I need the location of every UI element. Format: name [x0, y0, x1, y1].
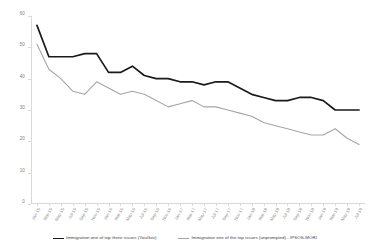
- x-axis-tick-mark: [359, 204, 360, 206]
- series-line-1: [37, 25, 359, 110]
- x-axis-line: [31, 203, 365, 204]
- x-axis-tick-label-text: Jan-16: [102, 207, 113, 221]
- x-axis-tick-label-text: Sep-17: [221, 207, 232, 222]
- legend-entry-label: Immigration one of the top issues (unpro…: [191, 235, 316, 241]
- x-axis-tick-label-text: Sep-18: [292, 207, 303, 222]
- y-axis-tick-label: 20: [20, 136, 25, 141]
- x-axis-tick-label-text: Jul-18: [282, 207, 292, 220]
- x-axis-tick-label-text: Jul-16: [138, 207, 148, 220]
- x-axis-tick-label-text: May-18: [268, 207, 279, 222]
- x-axis-tick-label-text: Mar-15: [42, 207, 53, 221]
- x-axis-tick-label-text: Nov-16: [161, 207, 172, 222]
- x-axis-tick-label-text: Jul-19: [353, 207, 363, 220]
- x-axis-tick-label-text: Jul-15: [67, 207, 77, 220]
- x-axis-tick-mark: [335, 204, 336, 206]
- x-axis-tick-mark: [49, 204, 50, 206]
- x-axis-tick-mark: [299, 204, 300, 206]
- x-axis-tick-label-text: Sep-15: [78, 207, 89, 222]
- x-axis-tick-mark: [132, 204, 133, 206]
- x-axis-tick-mark: [109, 204, 110, 206]
- x-axis-tick-mark: [311, 204, 312, 206]
- x-axis-tick-mark: [228, 204, 229, 206]
- x-axis-tick-mark: [347, 204, 348, 206]
- x-axis-tick-mark: [97, 204, 98, 206]
- x-axis-tick-mark: [37, 204, 38, 206]
- y-axis-tick-label: 0: [22, 199, 25, 204]
- x-axis-tick-label-text: Nov-17: [233, 207, 244, 222]
- x-axis-tick-mark: [144, 204, 145, 206]
- x-axis-tick-mark: [168, 204, 169, 206]
- x-axis-tick-label-text: Jan-18: [245, 207, 256, 221]
- x-axis-tick-label-text: Jul-17: [210, 207, 220, 220]
- y-axis-tick-mark: [28, 16, 31, 17]
- x-axis-tick-label-text: May-19: [340, 207, 351, 222]
- legend-entry-label: Immigration one of top three issues (You…: [66, 235, 156, 241]
- x-axis-tick-label-text: Mar-19: [328, 207, 339, 221]
- y-axis-tick-mark: [28, 141, 31, 142]
- x-axis-tick-mark: [323, 204, 324, 206]
- series-line-2: [37, 44, 359, 144]
- x-axis-tick-label-text: Nov-15: [90, 207, 101, 222]
- y-axis-tick-mark: [28, 110, 31, 111]
- y-axis-tick-mark: [28, 204, 31, 205]
- legend-entry-2[interactable]: Immigration one of the top issues (unpro…: [178, 235, 316, 241]
- x-axis-tick-mark: [216, 204, 217, 206]
- y-axis-tick-mark: [28, 79, 31, 80]
- x-axis-tick-label-text: May-17: [197, 207, 208, 222]
- y-axis-tick-label: 50: [20, 42, 25, 47]
- x-axis-tick-mark: [252, 204, 253, 206]
- x-axis-tick-mark: [156, 204, 157, 206]
- x-axis-tick-label-text: Jan-17: [174, 207, 185, 221]
- y-axis-tick-mark: [28, 173, 31, 174]
- x-axis-tick-label-text: Mar-18: [257, 207, 268, 221]
- x-axis-tick-mark: [73, 204, 74, 206]
- x-axis-tick-label-text: Mar-17: [185, 207, 196, 221]
- x-axis-tick-mark: [264, 204, 265, 206]
- y-axis-line: [31, 16, 32, 204]
- x-axis-tick-label-text: May-16: [125, 207, 136, 222]
- series-plot: [0, 0, 370, 251]
- legend-line-swatch-icon: [178, 238, 189, 239]
- immigration-salience-line-chart: 6050403020100 Jan-15Mar-15May-15Jul-15Se…: [0, 0, 370, 251]
- x-axis-tick-mark: [240, 204, 241, 206]
- y-axis-tick-label: 10: [20, 168, 25, 173]
- y-axis-tick-label: 30: [20, 105, 25, 110]
- x-axis-tick-mark: [120, 204, 121, 206]
- y-axis-tick-label: 40: [20, 74, 25, 79]
- x-axis-tick-mark: [192, 204, 193, 206]
- x-axis-tick-mark: [85, 204, 86, 206]
- x-axis-tick-label-text: Nov-18: [304, 207, 315, 222]
- x-axis-tick-mark: [276, 204, 277, 206]
- x-axis-tick-mark: [180, 204, 181, 206]
- x-axis-tick-label-text: May-15: [54, 207, 65, 222]
- x-axis-tick-mark: [61, 204, 62, 206]
- x-axis-tick-label-text: Jan-19: [317, 207, 328, 221]
- x-axis-tick-label-text: Sep-16: [149, 207, 160, 222]
- x-axis-tick-mark: [287, 204, 288, 206]
- y-axis-tick-label: 60: [20, 11, 25, 16]
- x-axis-tick-label-text: Jan-15: [30, 207, 41, 221]
- chart-legend: Immigration one of top three issues (You…: [0, 231, 370, 245]
- x-axis-tick-label-text: Mar-16: [114, 207, 125, 221]
- x-axis-tick-mark: [204, 204, 205, 206]
- legend-entry-1[interactable]: Immigration one of top three issues (You…: [53, 235, 156, 241]
- legend-line-swatch-icon: [53, 238, 64, 239]
- y-axis-tick-mark: [28, 47, 31, 48]
